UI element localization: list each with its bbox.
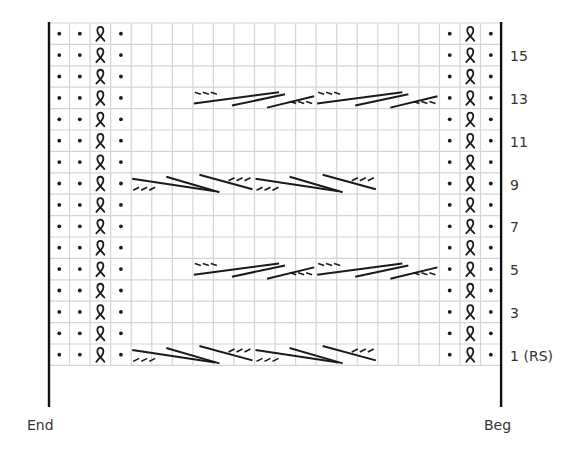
cable-stroke xyxy=(203,263,209,265)
purl-dot-icon xyxy=(78,75,82,79)
cable-stroke xyxy=(360,178,366,181)
cable-stroke xyxy=(306,273,312,275)
purl-dot-icon xyxy=(57,246,61,250)
cable-stroke xyxy=(323,175,376,189)
twisted-stitch-icon xyxy=(96,177,104,191)
purl-dot-icon xyxy=(57,53,61,57)
twisted-stitch-icon xyxy=(96,198,104,212)
purl-dot-icon xyxy=(57,203,61,207)
knitting-chart: 15131197531 (RS) End Beg xyxy=(0,0,588,450)
purl-dot-icon xyxy=(489,203,493,207)
twisted-stitch-icon xyxy=(96,134,104,148)
purl-dot-icon xyxy=(119,224,123,228)
purl-dot-icon xyxy=(119,203,123,207)
purl-dot-icon xyxy=(489,353,493,357)
row-label-9: 9 xyxy=(510,177,519,193)
purl-dot-icon xyxy=(448,117,452,121)
cable-stroke xyxy=(257,358,263,361)
purl-dot-icon xyxy=(57,331,61,335)
twisted-stitch-icon xyxy=(96,220,104,234)
cable-stroke xyxy=(326,263,332,265)
purl-dot-icon xyxy=(57,117,61,121)
twisted-stitch-icon xyxy=(96,155,104,169)
purl-dot-icon xyxy=(119,53,123,57)
cable-stroke xyxy=(133,187,139,190)
purl-dot-icon xyxy=(448,75,452,79)
purl-dot-icon xyxy=(448,267,452,271)
purl-dot-icon xyxy=(489,267,493,271)
purl-dot-icon xyxy=(119,75,123,79)
cable-stroke xyxy=(195,92,201,94)
twisted-stitch-icon xyxy=(466,155,474,169)
row-number-labels: 15131197531 (RS) xyxy=(510,48,553,364)
purl-dot-icon xyxy=(78,289,82,293)
purl-dot-icon xyxy=(489,32,493,36)
purl-dot-icon xyxy=(119,32,123,36)
purl-dot-icon xyxy=(448,139,452,143)
twisted-stitch-icon xyxy=(466,348,474,362)
purl-dot-icon xyxy=(489,139,493,143)
cable-stroke xyxy=(368,349,374,352)
twisted-stitch-icon xyxy=(96,262,104,276)
twisted-stitch-icon xyxy=(466,262,474,276)
purl-dot-icon xyxy=(448,96,452,100)
twisted-stitch-icon xyxy=(466,48,474,62)
twisted-stitch-icon xyxy=(466,220,474,234)
cable-stroke xyxy=(298,102,304,104)
cable-stroke xyxy=(199,346,252,360)
cable-stroke xyxy=(203,92,209,94)
purl-dot-icon xyxy=(448,224,452,228)
purl-dot-icon xyxy=(489,182,493,186)
cable-stroke xyxy=(237,178,243,181)
purl-dot-icon xyxy=(78,53,82,57)
row-label-15: 15 xyxy=(510,48,528,64)
purl-dot-icon xyxy=(489,53,493,57)
purl-dot-icon xyxy=(57,353,61,357)
purl-dot-icon xyxy=(78,160,82,164)
row-label-1: 1 (RS) xyxy=(510,348,553,364)
cable-stroke xyxy=(318,92,324,94)
purl-dot-icon xyxy=(448,246,452,250)
purl-dot-icon xyxy=(57,182,61,186)
purl-dot-icon xyxy=(489,310,493,314)
cable-stroke xyxy=(429,273,435,275)
cable-stroke xyxy=(326,92,332,94)
twisted-stitch-icon xyxy=(466,91,474,105)
twisted-stitch-icon xyxy=(466,284,474,298)
cable-stroke xyxy=(141,358,147,361)
purl-dot-icon xyxy=(57,139,61,143)
twisted-stitch-icon xyxy=(466,113,474,127)
purl-dot-icon xyxy=(57,75,61,79)
twisted-stitch-icon xyxy=(96,284,104,298)
purl-dot-icon xyxy=(489,75,493,79)
twisted-stitch-icon xyxy=(466,177,474,191)
purl-dot-icon xyxy=(57,160,61,164)
cable-stroke xyxy=(368,178,374,181)
purl-dot-icon xyxy=(78,182,82,186)
purl-dot-icon xyxy=(78,353,82,357)
cable-stroke xyxy=(237,349,243,352)
purl-dot-icon xyxy=(448,331,452,335)
cable-stroke xyxy=(334,92,340,94)
purl-dot-icon xyxy=(57,224,61,228)
cable-stroke xyxy=(195,263,201,265)
cable-stroke xyxy=(133,358,139,361)
purl-dot-icon xyxy=(489,289,493,293)
twisted-stitch-icon xyxy=(96,91,104,105)
cable-stroke xyxy=(265,187,271,190)
row-label-11: 11 xyxy=(510,134,528,150)
purl-dot-icon xyxy=(448,310,452,314)
row-label-5: 5 xyxy=(510,262,519,278)
purl-dot-icon xyxy=(78,203,82,207)
cable-stroke xyxy=(360,349,366,352)
cable-stroke xyxy=(211,92,217,94)
purl-dot-icon xyxy=(119,96,123,100)
purl-dot-icon xyxy=(57,310,61,314)
purl-dot-icon xyxy=(78,267,82,271)
purl-dot-icon xyxy=(489,331,493,335)
purl-dot-icon xyxy=(489,96,493,100)
twisted-stitch-icon xyxy=(466,241,474,255)
twisted-stitch-icon xyxy=(466,327,474,341)
cable-stroke xyxy=(421,102,427,104)
purl-dot-icon xyxy=(489,224,493,228)
